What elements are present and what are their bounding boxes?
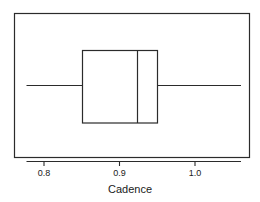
boxplot-figure: 0.8 0.9 1.0 Cadence [0,0,260,202]
x-axis-title: Cadence [108,183,152,195]
x-tick-label-1: 0.9 [113,168,126,178]
x-tick-label-0: 0.8 [38,168,51,178]
x-tick-label-2: 1.0 [189,168,202,178]
interquartile-box [83,51,158,124]
boxplot-canvas: 0.8 0.9 1.0 Cadence [0,0,260,202]
